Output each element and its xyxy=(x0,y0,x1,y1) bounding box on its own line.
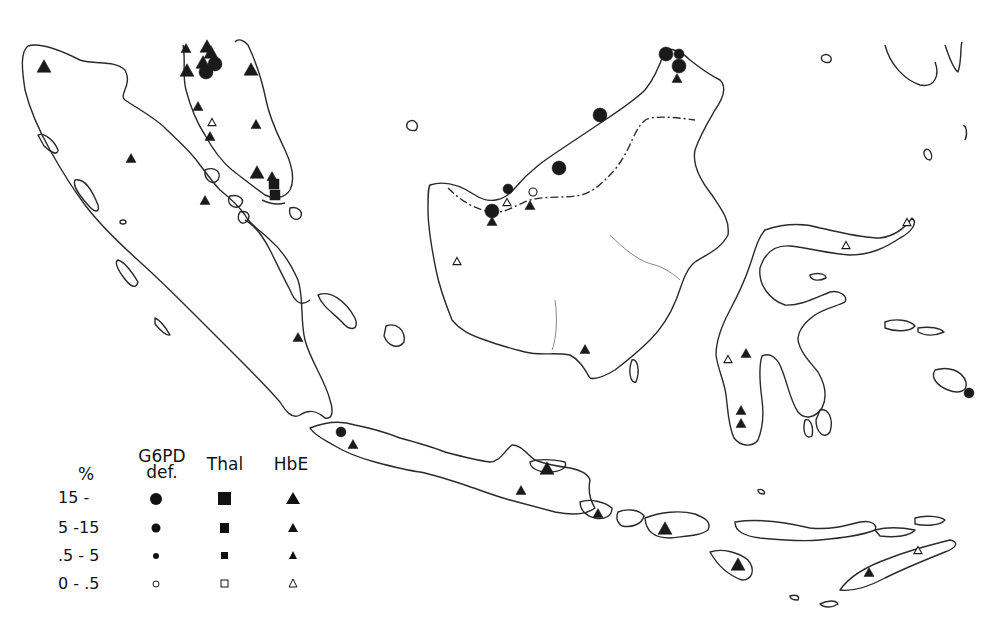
hbe-marker-triangle-icon xyxy=(914,546,922,553)
g6pd-marker-circle-icon xyxy=(336,427,346,437)
g6pd-marker-circle-icon xyxy=(199,65,213,79)
hbe-marker-triangle-icon xyxy=(250,166,264,179)
hbe-marker-triangle-icon xyxy=(205,132,215,141)
legend-hbe-05-5-icon xyxy=(289,551,297,559)
hbe-marker-triangle-icon xyxy=(37,60,51,73)
hbe-marker-triangle-icon xyxy=(516,486,526,495)
hbe-marker-triangle-icon xyxy=(658,522,672,535)
hbe-marker-triangle-icon xyxy=(593,509,603,518)
hbe-marker-triangle-icon xyxy=(736,406,746,415)
hbe-marker-triangle-icon xyxy=(487,217,497,226)
hbe-marker-triangle-icon xyxy=(348,440,358,449)
legend-g6pd-15plus-icon xyxy=(150,493,162,505)
g6pd-marker-circle-icon xyxy=(672,59,686,73)
hbe-marker-triangle-icon xyxy=(181,44,191,53)
thal-marker-square-icon xyxy=(270,190,280,200)
hbe-marker-triangle-icon xyxy=(453,257,461,264)
g6pd-marker-circle-icon xyxy=(529,188,537,196)
hbe-marker-triangle-icon xyxy=(251,120,261,129)
thal-marker-square-icon xyxy=(269,179,279,189)
hbe-marker-triangle-icon xyxy=(180,64,194,77)
hbe-marker-triangle-icon xyxy=(731,558,745,571)
legend-g6pd-5-15-icon xyxy=(152,524,161,533)
hbe-marker-triangle-icon xyxy=(525,201,535,210)
legend-thal-15plus-icon xyxy=(218,492,231,505)
g6pd-marker-circle-icon xyxy=(552,161,566,175)
hbe-marker-triangle-icon xyxy=(741,349,751,358)
hbe-marker-triangle-icon xyxy=(503,198,511,205)
hbe-marker-triangle-icon xyxy=(580,345,590,354)
legend-thal-5-15-icon xyxy=(220,523,229,533)
legend-hbe-15plus-icon xyxy=(286,492,300,504)
legend-symbols xyxy=(70,448,320,608)
legend-hbe-0-05-icon xyxy=(289,579,297,587)
hbe-marker-triangle-icon xyxy=(724,355,732,362)
hbe-marker-triangle-icon xyxy=(126,154,136,163)
g6pd-marker-circle-icon xyxy=(964,388,974,398)
hbe-marker-triangle-icon xyxy=(672,74,682,83)
g6pd-marker-circle-icon xyxy=(503,184,513,194)
hbe-marker-triangle-icon xyxy=(293,333,303,342)
hbe-marker-triangle-icon xyxy=(736,419,746,428)
legend-g6pd-0-05-icon xyxy=(153,581,159,587)
legend-thal-0-05-icon xyxy=(221,580,228,587)
hbe-marker-triangle-icon xyxy=(540,462,554,475)
g6pd-marker-circle-icon xyxy=(674,49,684,59)
legend-g6pd-05-5-icon xyxy=(153,553,159,559)
hbe-marker-triangle-icon xyxy=(193,102,203,111)
hbe-marker-triangle-icon xyxy=(244,63,258,76)
legend-thal-05-5-icon xyxy=(221,552,228,559)
g6pd-marker-circle-icon xyxy=(593,108,607,122)
map-legend: % G6PD def. Thal HbE 15 - 5 -15 .5 - 5 0… xyxy=(70,448,320,608)
hbe-marker-triangle-icon xyxy=(864,568,874,577)
g6pd-marker-circle-icon xyxy=(485,204,499,218)
hbe-marker-triangle-icon xyxy=(200,196,210,205)
legend-hbe-5-15-icon xyxy=(288,523,298,532)
hbe-marker-triangle-icon xyxy=(208,118,216,125)
hbe-marker-triangle-icon xyxy=(903,218,911,225)
hbe-marker-triangle-icon xyxy=(842,241,850,248)
g6pd-marker-circle-icon xyxy=(659,47,673,61)
